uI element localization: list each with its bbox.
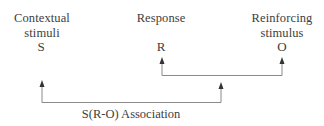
s-ro-connector <box>40 80 224 103</box>
association-label: S(R-O) Association <box>82 107 180 121</box>
arrowhead-to-ro-link-icon <box>219 82 224 89</box>
arrowhead-to-r-icon <box>160 57 165 64</box>
arrowhead-to-s-icon <box>40 80 45 87</box>
r-o-connector <box>160 57 285 76</box>
arrowhead-to-o-icon <box>280 57 285 64</box>
